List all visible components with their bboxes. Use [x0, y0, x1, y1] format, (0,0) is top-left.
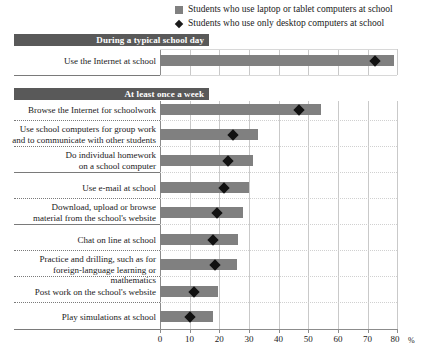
- bar-group-work: [160, 129, 258, 140]
- row-separator: [14, 146, 160, 147]
- row-separator-plot: [160, 250, 397, 251]
- row-separator: [14, 302, 160, 303]
- legend-label-desktop-only: Students who use only desktop computers …: [188, 18, 384, 29]
- x-axis-label-50: 50: [293, 334, 323, 345]
- row-separator: [14, 198, 160, 199]
- row-label-line: Use e-mail at school: [10, 183, 156, 194]
- row-label-line: Use school computers for group work: [10, 124, 156, 135]
- row-label-line: foreign-language learning or mathematics: [10, 265, 156, 286]
- row-separator: [14, 224, 160, 225]
- x-axis-tick-60: [338, 329, 339, 333]
- row-label-browse-internet-schoolwork: Browse the Internet for schoolwork: [10, 105, 156, 116]
- row-label-post-work: Post work on the school's website: [10, 287, 156, 298]
- legend-square-swatch-icon: [175, 6, 183, 14]
- x-axis-tick-80: [397, 329, 398, 333]
- row-separator: [14, 120, 160, 121]
- row-label-line: on a school computer: [10, 161, 156, 172]
- x-axis-label-80: 80: [380, 334, 410, 345]
- row-separator: [14, 250, 160, 251]
- x-axis-tick-70: [368, 329, 369, 333]
- x-axis-tick-40: [279, 329, 280, 333]
- plot-bottom-border-1: [160, 75, 397, 76]
- legend-item-desktop-only: Students who use only desktop computers …: [175, 17, 415, 30]
- row-label-line: Download, upload or browse: [10, 202, 156, 213]
- row-label-line: Post work on the school's website: [10, 287, 156, 298]
- gridline-80: [397, 49, 398, 75]
- row-separator-plot: [160, 120, 397, 121]
- row-label-individual-homework: Do individual homework on a school compu…: [10, 150, 156, 171]
- label-separator-bottom: [14, 329, 160, 330]
- row-label-line: Practice and drilling, such as for: [10, 254, 156, 265]
- gridline-70-b: [368, 101, 369, 329]
- row-separator: [14, 172, 160, 173]
- gridline-60-b: [338, 101, 339, 329]
- x-axis-unit-label: %: [408, 335, 415, 346]
- row-label-use-email: Use e-mail at school: [10, 183, 156, 194]
- row-label-download-upload-browse: Download, upload or browse material from…: [10, 202, 156, 223]
- row-separator-plot: [160, 172, 397, 173]
- row-label-line: Browse the Internet for schoolwork: [10, 105, 156, 116]
- bar-chat-on-line: [160, 234, 238, 245]
- x-axis-label-0: 0: [145, 334, 175, 345]
- row-label-line: material from the school's website: [10, 213, 156, 224]
- legend-diamond-marker-icon: [175, 19, 184, 28]
- row-separator-plot: [160, 146, 397, 147]
- row-label-group-work: Use school computers for group work and …: [10, 124, 156, 145]
- row-separator: [14, 276, 160, 277]
- row-label-play-simulations: Play simulations at school: [10, 312, 156, 323]
- row-label-line: Do individual homework: [10, 150, 156, 161]
- row-label-practice-drilling: Practice and drilling, such as for forei…: [10, 254, 156, 286]
- gridline-80-b: [397, 101, 398, 329]
- x-axis-label-30: 30: [234, 334, 264, 345]
- chart-legend: Students who use laptop or tablet comput…: [175, 3, 415, 31]
- row-label-line: Use the Internet at school: [10, 56, 156, 67]
- row-label-line: Chat on line at school: [10, 235, 156, 246]
- chart-container: Students who use laptop or tablet comput…: [0, 0, 423, 349]
- row-label-line: Play simulations at school: [10, 312, 156, 323]
- x-axis-tick-10: [190, 329, 191, 333]
- x-axis-label-60: 60: [323, 334, 353, 345]
- bar-download-upload-browse: [160, 207, 243, 218]
- bar-use-internet-at-school: [160, 55, 394, 66]
- x-axis-tick-0: [160, 329, 161, 333]
- x-axis-label-20: 20: [204, 334, 234, 345]
- x-axis-label-10: 10: [175, 334, 205, 345]
- row-label-use-internet-at-school: Use the Internet at school: [10, 56, 156, 67]
- section-header-at-least-once-a-week: At least once a week: [14, 88, 209, 100]
- row-separator-plot: [160, 224, 397, 225]
- legend-label-laptop-tablet: Students who use laptop or tablet comput…: [188, 4, 393, 15]
- bar-use-email: [160, 182, 249, 193]
- gridline-50-b: [308, 101, 309, 329]
- plot-top-border-1: [160, 49, 397, 50]
- row-separator-plot: [160, 302, 397, 303]
- legend-item-laptop-tablet: Students who use laptop or tablet comput…: [175, 3, 415, 16]
- x-axis-tick-50: [308, 329, 309, 333]
- row-label-chat-on-line: Chat on line at school: [10, 235, 156, 246]
- row-separator-plot: [160, 198, 397, 199]
- label-separator-1: [14, 75, 160, 76]
- x-axis-label-40: 40: [264, 334, 294, 345]
- x-axis-tick-30: [249, 329, 250, 333]
- x-axis-tick-20: [219, 329, 220, 333]
- row-separator-plot: [160, 276, 397, 277]
- row-label-line: and to communicate with other students: [10, 135, 156, 146]
- gridline-40-b: [279, 101, 280, 329]
- x-axis-label-70: 70: [353, 334, 383, 345]
- section-header-typical-school-day: During a typical school day: [14, 34, 209, 46]
- bar-individual-homework: [160, 155, 253, 166]
- bar-practice-drilling: [160, 259, 237, 270]
